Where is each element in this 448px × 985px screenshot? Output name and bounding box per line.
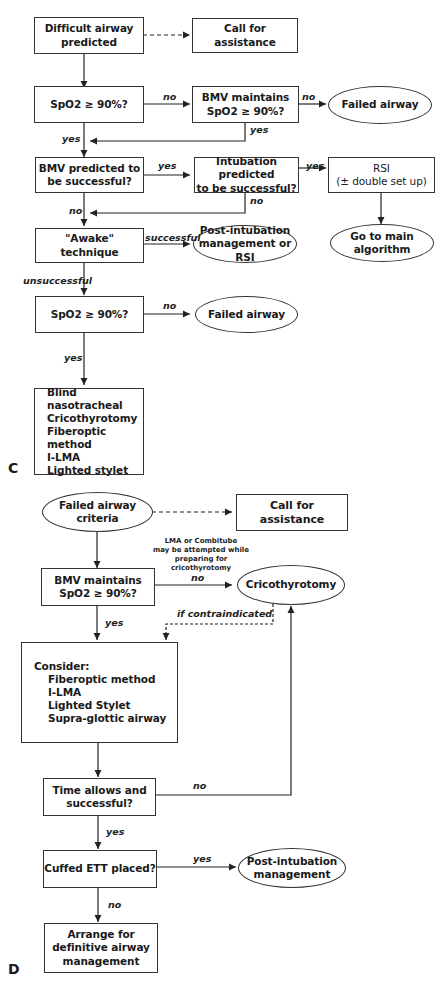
spo2-check-box: SpO2 ≥ 90%? (34, 86, 144, 123)
option-item: Blind nasotracheal (47, 386, 143, 412)
option-item: Lighted stylet (47, 464, 143, 477)
edge-label-no: no (69, 205, 82, 216)
options-list-box: Blind nasotracheal Cricothyrotomy Fibero… (34, 388, 144, 475)
edge-label-yes: yes (62, 133, 80, 144)
arrange-definitive-airway-box: Arrange for definitive airway management (44, 923, 158, 973)
bmv-predicted-box: BMV predicted to be successful? (35, 157, 144, 193)
edge-label-yes: yes (105, 617, 123, 628)
difficult-airway-predicted-box: Difficult airway predicted (34, 17, 144, 54)
edge-label-unsuccessful: unsuccessful (23, 275, 92, 286)
option-item: Cricothyrotomy (47, 412, 143, 425)
consider-item: Fiberoptic method (34, 673, 166, 686)
option-item: I-LMA (47, 451, 143, 464)
edge-label-no: no (108, 899, 121, 910)
edge-label-if-contraindicated: if contraindicated (177, 608, 272, 619)
time-allows-box: Time allows and successful? (43, 778, 156, 816)
bmv-maintains-box: BMV maintains SpO2 ≥ 90%? (192, 86, 299, 123)
post-intubation-or-rsi-oval: Post-intubation management or RSI (193, 225, 297, 263)
call-for-assistance-box: Call for assistance (192, 18, 298, 53)
edge-label-no: no (193, 780, 206, 791)
option-item: Fiberoptic method (47, 425, 143, 451)
panel-label-d: D (8, 961, 20, 977)
edge-label-yes: yes (158, 160, 176, 171)
edge-label-yes: yes (64, 352, 82, 363)
edge-label-yes: yes (250, 124, 268, 135)
edge-label-no: no (302, 91, 315, 102)
consider-item: Supra-glottic airway (34, 712, 166, 725)
call-for-assistance-box-d: Call for assistance (236, 494, 348, 531)
post-intubation-management-oval: Post-intubation management (238, 848, 346, 888)
rsi-box: RSI (± double set up) (328, 157, 435, 193)
consider-item: I-LMA (34, 686, 166, 699)
cricothyrotomy-oval: Cricothyrotomy (237, 565, 345, 605)
edge-label-yes: yes (306, 160, 324, 171)
connector-lines (0, 0, 448, 985)
awake-technique-box: "Awake" technique (35, 228, 144, 263)
go-to-main-algorithm-oval: Go to main algorithm (330, 224, 434, 262)
edge-label-no: no (163, 300, 176, 311)
edge-label-yes: yes (106, 826, 124, 837)
failed-airway-2-oval: Failed airway (195, 296, 298, 333)
consider-title: Consider: (34, 660, 166, 673)
failed-airway-oval: Failed airway (328, 86, 432, 124)
consider-item: Lighted Stylet (34, 699, 166, 712)
spo2-check-2-box: SpO2 ≥ 90%? (35, 296, 144, 333)
intubation-predicted-box: Intubation predicted to be successful? (194, 157, 299, 193)
failed-airway-criteria-oval: Failed airway criteria (42, 492, 153, 532)
edge-label-no: no (191, 572, 204, 583)
bmv-maintains-box-d: BMV maintains SpO2 ≥ 90%? (41, 568, 155, 606)
panel-label-c: C (8, 460, 18, 476)
cuffed-ett-box: Cuffed ETT placed? (43, 850, 157, 888)
lma-combitube-note: LMA or Combitube may be attempted while … (148, 537, 254, 573)
edge-label-yes: yes (193, 853, 211, 864)
edge-label-no: no (163, 91, 176, 102)
edge-label-no: no (250, 195, 263, 206)
consider-options-box: Consider: Fiberoptic method I-LMA Lighte… (21, 642, 178, 743)
edge-label-successful: successful (145, 232, 201, 243)
